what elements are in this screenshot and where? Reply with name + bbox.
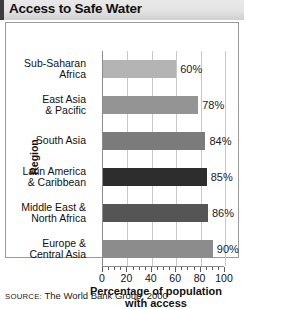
category-label: South Asia <box>0 135 86 147</box>
axis-tick-label: 80 <box>194 272 206 284</box>
axis-tick-minor <box>169 267 170 270</box>
bar-row: 85% <box>103 159 284 195</box>
source-note: SOURCE: The World Bank Group, 2000 <box>5 290 168 301</box>
axis-tick-minor <box>145 267 146 270</box>
plot-area: 60%78%84%85%86%90% <box>102 51 224 267</box>
category-label: Latin America& Caribbean <box>0 166 86 189</box>
bar <box>103 60 176 78</box>
category-label-line: North Africa <box>0 213 86 225</box>
bar <box>103 96 198 114</box>
category-label: Middle East &North Africa <box>0 202 86 225</box>
axis-tick-minor <box>114 267 115 270</box>
category-label-line: Africa <box>0 69 86 81</box>
bar-value-label: 90% <box>213 240 239 258</box>
axis-tick-label: 100 <box>215 272 233 284</box>
x-axis-tick-labels: 020406080100 <box>102 272 224 286</box>
bar-row: 60% <box>103 51 284 87</box>
axis-tick-minor <box>133 267 134 270</box>
bar-value-label: 85% <box>207 168 233 186</box>
category-label-line: & Caribbean <box>0 177 86 189</box>
bar-row: 84% <box>103 123 284 159</box>
bar <box>103 240 213 258</box>
page-title: Access to Safe Water <box>9 1 142 16</box>
axis-tick-label: 60 <box>169 272 181 284</box>
plot-inner: 60%78%84%85%86%90% <box>102 51 224 267</box>
category-label: East Asia& Pacific <box>0 94 86 117</box>
axis-tick-minor <box>218 267 219 270</box>
title-accent-bar <box>0 0 4 20</box>
axis-tick-minor <box>181 267 182 270</box>
axis-tick-label: 40 <box>145 272 157 284</box>
axis-tick-label: 0 <box>99 272 105 284</box>
category-label-line: & Pacific <box>0 105 86 117</box>
axis-tick-minor <box>194 267 195 270</box>
category-label-line: Central Asia <box>0 249 86 261</box>
bar <box>103 204 208 222</box>
axis-tick-minor <box>206 267 207 270</box>
category-label: Europe &Central Asia <box>0 238 86 261</box>
axis-tick-minor <box>120 267 121 270</box>
bar-row: 78% <box>103 87 284 123</box>
bar-value-label: 60% <box>176 60 202 78</box>
axis-tick-minor <box>157 267 158 270</box>
bar-value-label: 86% <box>208 204 234 222</box>
axis-tick-minor <box>187 267 188 270</box>
chart-frame: Region 60%78%84%85%86%90% Sub-SaharanAfr… <box>5 22 239 258</box>
bar-value-label: 78% <box>198 96 224 114</box>
bar-row: 86% <box>103 195 284 231</box>
axis-tick-minor <box>163 267 164 270</box>
source-label: SOURCE: <box>5 292 42 301</box>
axis-tick-minor <box>108 267 109 270</box>
source-text: The World Bank Group, 2000 <box>44 290 167 301</box>
bar-value-label: 84% <box>205 132 231 150</box>
bar <box>103 132 205 150</box>
category-label-line: South Asia <box>0 135 86 147</box>
axis-tick-label: 20 <box>121 272 133 284</box>
chart-title-band: Access to Safe Water <box>0 0 244 20</box>
category-label: Sub-SaharanAfrica <box>0 58 86 81</box>
bar-row: 90% <box>103 231 284 267</box>
axis-tick-minor <box>212 267 213 270</box>
axis-tick-minor <box>139 267 140 270</box>
bar <box>103 168 207 186</box>
